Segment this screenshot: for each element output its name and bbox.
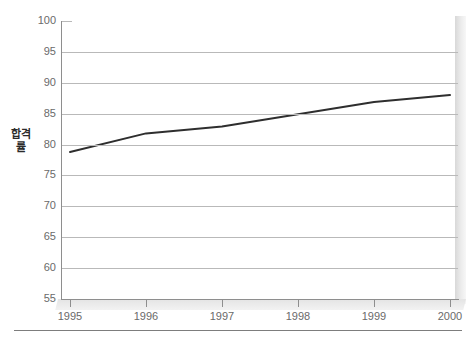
gridline [62, 237, 458, 238]
gridline [62, 114, 458, 115]
y-axis-tick-label: 85 [26, 107, 56, 119]
gridline [62, 21, 72, 22]
gridline [62, 83, 458, 84]
x-axis-tick-mark [146, 300, 147, 307]
y-axis-tick-label: 90 [26, 76, 56, 88]
gridline [62, 268, 458, 269]
x-axis-tick-label: 1996 [116, 310, 176, 322]
page-divider-rule [14, 330, 462, 331]
x-axis-tick-label: 1995 [40, 310, 100, 322]
x-axis-tick-mark [222, 300, 223, 307]
y-axis-tick-label: 80 [26, 138, 56, 150]
x-axis-tick-mark [298, 300, 299, 307]
x-axis-tick-label: 1999 [344, 310, 404, 322]
y-axis-tick-labels: 556065707580859095100 [24, 21, 56, 299]
y-axis-tick-label: 70 [26, 199, 56, 211]
x-axis-tick-mark [450, 300, 451, 307]
gridline [62, 206, 458, 207]
gridline [62, 145, 458, 146]
x-axis-tick-label: 2000 [420, 310, 474, 322]
x-axis-tick-labels: 199519961997199819992000 [0, 310, 474, 326]
y-axis-tick-label: 95 [26, 45, 56, 57]
line-chart-figure: 합격률 556065707580859095100 19951996199719… [0, 0, 474, 340]
data-series-line [62, 21, 458, 299]
y-axis-tick-label: 75 [26, 168, 56, 180]
plot-area [62, 21, 458, 299]
y-axis-tick-label: 60 [26, 261, 56, 273]
x-axis-tick-mark [374, 300, 375, 307]
gridline [62, 175, 458, 176]
gridline [62, 52, 458, 53]
x-axis-tick-label: 1998 [268, 310, 328, 322]
x-axis-tick-marks [0, 300, 474, 308]
x-axis-tick-mark [70, 300, 71, 307]
y-axis-tick-label: 65 [26, 230, 56, 242]
x-axis-tick-label: 1997 [192, 310, 252, 322]
y-axis-tick-label: 100 [26, 14, 56, 26]
